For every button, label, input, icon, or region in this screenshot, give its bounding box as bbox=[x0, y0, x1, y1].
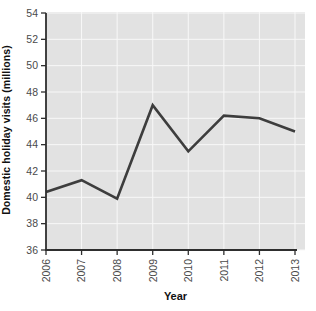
y-tick-label: 40 bbox=[26, 191, 38, 203]
x-tick-label: 2007 bbox=[75, 259, 87, 283]
y-tick-label: 48 bbox=[26, 86, 38, 98]
y-tick-label: 42 bbox=[26, 165, 38, 177]
x-tick-label: 2012 bbox=[253, 259, 265, 283]
y-tick-label: 54 bbox=[26, 7, 38, 19]
y-tick-label: 38 bbox=[26, 217, 38, 229]
line-chart-canvas: 3638404244464850525420062007200820092010… bbox=[0, 0, 316, 311]
x-tick-label: 2013 bbox=[289, 259, 301, 283]
y-tick-label: 36 bbox=[26, 244, 38, 256]
x-tick-label: 2010 bbox=[182, 259, 194, 283]
y-tick-label: 46 bbox=[26, 112, 38, 124]
x-tick-label: 2008 bbox=[111, 259, 123, 283]
x-tick-label: 2006 bbox=[40, 259, 52, 283]
domestic-holiday-visits-figure: Domestic holiday visits (millions) 36384… bbox=[0, 0, 316, 311]
x-tick-label: 2009 bbox=[147, 259, 159, 283]
y-tick-label: 44 bbox=[26, 138, 38, 150]
x-axis-title: Year bbox=[46, 290, 305, 302]
y-tick-label: 50 bbox=[26, 59, 38, 71]
plot-area bbox=[46, 12, 305, 250]
x-tick-label: 2011 bbox=[218, 259, 230, 282]
y-tick-label: 52 bbox=[26, 33, 38, 45]
